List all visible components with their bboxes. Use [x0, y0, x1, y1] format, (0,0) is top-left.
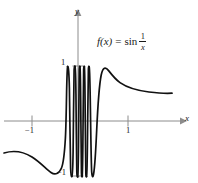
equation-fraction: 1 x — [139, 32, 146, 52]
equation-fraction-numerator: 1 — [140, 32, 146, 41]
curve-right-branch — [89, 67, 172, 177]
y-tick-label-positive-one: 1 — [61, 58, 65, 67]
y-tick-label-negative-one: −1 — [57, 168, 66, 177]
x-tick-label-positive-one: 1 — [126, 126, 130, 135]
plot-canvas — [0, 0, 198, 183]
equation-equals-sign: = — [115, 36, 121, 47]
curve-left-branch — [4, 67, 68, 174]
equation-function-name: f(x) — [97, 36, 112, 47]
graph-figure: x y −1 1 1 −1 f(x) = sin 1 x — [0, 0, 198, 183]
equation-sine-operator: sin — [124, 36, 137, 47]
x-axis-label: x — [185, 114, 189, 123]
equation-annotation: f(x) = sin 1 x — [97, 32, 146, 52]
y-axis-label: y — [75, 7, 79, 16]
equation-fraction-denominator: x — [140, 43, 146, 52]
x-tick-label-negative-one: −1 — [25, 126, 34, 135]
